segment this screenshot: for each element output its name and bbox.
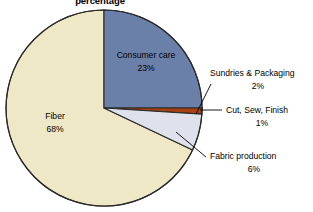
label-fabric-production-value: 6%	[248, 164, 261, 174]
label-cut-sew-finish-name: Cut, Sew, Finish	[226, 105, 288, 115]
pie-chart-figure: percentage Consumer care 23% Fiber 68%	[0, 0, 313, 212]
label-consumer-care-name: Consumer care	[117, 50, 176, 60]
label-cut-sew-finish-value: 1%	[256, 118, 269, 128]
label-fiber-name: Fiber	[45, 111, 65, 121]
pie-slices	[6, 10, 202, 206]
label-fiber-value: 68%	[46, 124, 64, 134]
label-fabric-production-name: Fabric production	[210, 151, 277, 161]
label-consumer-care-value: 23%	[137, 63, 155, 73]
label-sundries-packaging-value: 2%	[252, 81, 265, 91]
pie-chart-svg: Consumer care 23% Fiber 68% Sundries & P…	[0, 0, 313, 212]
callout-labels: Sundries & Packaging 2% Cut, Sew, Finish…	[210, 68, 295, 174]
label-sundries-packaging-name: Sundries & Packaging	[210, 68, 295, 78]
